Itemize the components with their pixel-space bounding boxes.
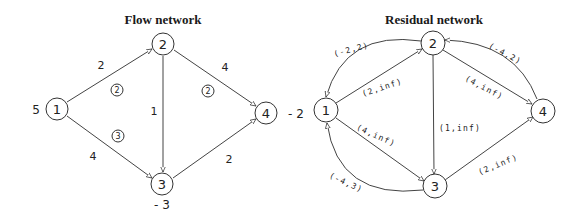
residual-network-title: Residual network <box>385 12 484 27</box>
svg-text:4: 4 <box>262 106 270 121</box>
flow-edge-3-4 <box>173 119 256 178</box>
flow-edge-2-4 <box>174 50 256 106</box>
svg-text:3: 3 <box>158 177 166 192</box>
res-edge-2-4-label: (4,inf) <box>463 74 504 102</box>
flow-node-1: 1 <box>46 98 68 120</box>
res-edge-4-2-label: (-4,2) <box>487 41 523 66</box>
flow-badge-2-4: 2 <box>202 85 214 97</box>
flow-network-title: Flow network <box>125 12 203 27</box>
flow-badge-1-3: 3 <box>112 130 124 142</box>
res-edge-2-3-label: (1,inf) <box>439 124 481 133</box>
res-node-2: 2 <box>421 31 445 55</box>
flow-node-4: 4 <box>255 102 277 124</box>
svg-text:2: 2 <box>114 86 119 95</box>
svg-text:2: 2 <box>205 87 210 96</box>
svg-text:2: 2 <box>429 36 437 51</box>
res-edge-2-1-label: (-2,2) <box>333 41 370 59</box>
res-edge-2-3 <box>433 55 434 174</box>
network-diagrams: Flow network 2 4 1 4 2 2 3 2 1 <box>0 0 579 224</box>
res-edge-3-4-label: (2,inf) <box>477 153 519 177</box>
flow-node-3: 3 <box>151 173 173 195</box>
res-node-3: 3 <box>423 174 447 198</box>
svg-text:4: 4 <box>539 104 547 119</box>
flow-edge-2-4-cost: 4 <box>222 61 229 74</box>
residual-network: Residual network (-2,2) (2,inf) (-4,2) (… <box>314 12 555 198</box>
flow-edge-3-4-cost: 2 <box>226 153 233 166</box>
flow-node-1-supply: 5 <box>32 103 40 117</box>
flow-node-2: 2 <box>152 33 174 55</box>
flow-edge-1-2 <box>67 49 152 102</box>
flow-network: Flow network 2 4 1 4 2 2 3 2 1 <box>32 12 304 212</box>
flow-node-4-supply: - 2 <box>288 107 304 121</box>
flow-badge-1-2: 2 <box>111 84 123 96</box>
svg-text:1: 1 <box>53 102 61 117</box>
res-edge-3-1-label: (-4,3) <box>328 171 365 194</box>
res-node-1: 1 <box>314 98 338 122</box>
flow-edge-1-3 <box>67 116 152 178</box>
res-node-4: 4 <box>531 99 555 123</box>
flow-edge-2-3-cost: 1 <box>151 105 158 118</box>
svg-text:3: 3 <box>115 132 120 141</box>
flow-node-3-supply: - 3 <box>154 198 170 212</box>
svg-text:1: 1 <box>322 103 330 118</box>
flow-edge-1-3-cost: 4 <box>90 150 97 163</box>
svg-text:2: 2 <box>159 37 167 52</box>
res-edge-1-2-label: (2,inf) <box>361 77 404 99</box>
flow-edge-1-2-cost: 2 <box>98 59 105 72</box>
svg-text:3: 3 <box>431 179 439 194</box>
